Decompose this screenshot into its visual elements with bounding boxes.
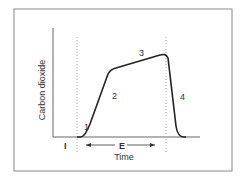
x-axis-label: Time xyxy=(114,152,134,162)
arrow-left-icon xyxy=(86,143,91,147)
expiration-label: E xyxy=(119,141,125,151)
phase-3-label: 3 xyxy=(139,48,144,58)
phase-1-label: 1 xyxy=(84,122,89,132)
arrow-right-icon xyxy=(150,143,155,147)
phase-2-label: 2 xyxy=(112,91,117,101)
capnogram-diagram: 1 2 3 4 I E Time Carbon dioxide xyxy=(0,0,246,178)
phase-4-label: 4 xyxy=(180,92,185,102)
co2-curve xyxy=(77,54,186,137)
y-axis-label: Carbon dioxide xyxy=(37,60,47,121)
inspiration-label: I xyxy=(64,141,67,151)
